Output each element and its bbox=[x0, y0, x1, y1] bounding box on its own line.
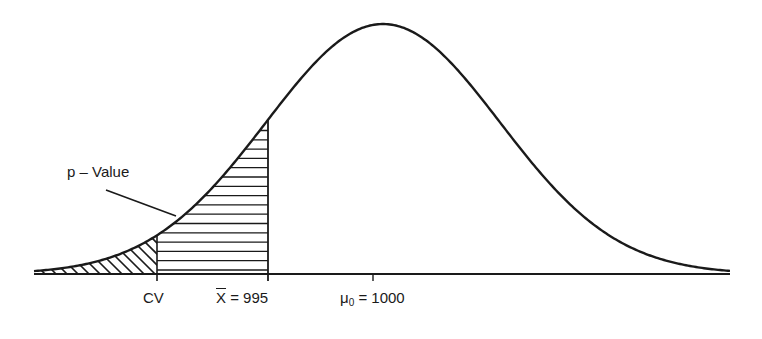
cv-label: CV bbox=[143, 290, 164, 305]
p-value-region-hatch bbox=[152, 112, 270, 270]
normal-curve bbox=[34, 24, 730, 271]
mu-label: μ0 = 1000 bbox=[340, 290, 405, 308]
mu-value: = 1000 bbox=[354, 289, 404, 306]
xbar-value: = 995 bbox=[226, 289, 268, 306]
xbar-label: X = 995 bbox=[216, 290, 268, 305]
p-value-label: p – Value bbox=[67, 164, 129, 179]
mu-symbol: μ bbox=[340, 289, 349, 306]
p-value-leader-line bbox=[106, 190, 176, 216]
xbar-symbol: X bbox=[216, 289, 226, 306]
